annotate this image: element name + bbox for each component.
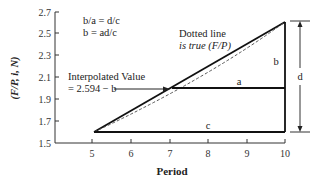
dotted-note-line-1: Dotted line (179, 28, 226, 39)
x-ticks (92, 139, 285, 143)
interpolated-value-line-2: = 2.594 − b (68, 83, 117, 94)
y-tick-label: 2.1 (39, 72, 52, 83)
x-tick-label: 5 (90, 148, 95, 159)
y-tick-labels: 2.7 2.5 2.3 2.1 1.9 1.7 1.5 (39, 7, 52, 149)
y-tick-label: 2.5 (39, 28, 52, 39)
y-tick-label: 1.5 (39, 138, 52, 149)
x-tick-label: 9 (245, 148, 250, 159)
label-d: d (297, 71, 303, 82)
y-tick-label: 1.9 (39, 94, 52, 105)
y-tick-label: 2.3 (39, 50, 52, 61)
label-b: b (273, 56, 278, 67)
x-tick-label: 6 (129, 148, 134, 159)
label-a: a (237, 76, 242, 87)
x-axis-title: Period (156, 165, 187, 177)
y-tick-label: 2.7 (39, 7, 52, 18)
formula-line-1: b/a = d/c (83, 15, 120, 26)
interpolated-value-line-1: Interpolated Value (68, 71, 145, 82)
x-tick-label: 8 (206, 148, 211, 159)
y-tick-label: 1.7 (39, 116, 52, 127)
x-tick-labels: 5 6 7 8 9 10 (90, 148, 291, 159)
label-c: c (206, 120, 211, 131)
y-ticks (55, 12, 59, 121)
y-axis-title: (F/P, i, N) (9, 57, 21, 100)
x-tick-label: 7 (168, 148, 173, 159)
arrowhead-up-icon (298, 21, 303, 27)
arrowhead-down-icon (298, 126, 303, 132)
interpolation-diagram: 2.7 2.5 2.3 2.1 1.9 1.7 1.5 5 6 7 8 9 10… (0, 0, 329, 179)
x-tick-label: 10 (280, 148, 290, 159)
formula-line-2: b = ad/c (83, 27, 117, 38)
dotted-note-line-2: is true (F/P) (179, 40, 231, 52)
